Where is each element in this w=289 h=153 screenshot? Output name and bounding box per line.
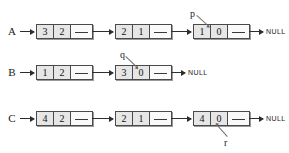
node-cell-value: 2 [116, 25, 133, 38]
node-cell-value: 2 [116, 112, 133, 125]
null-arrow [171, 72, 185, 73]
head-arrow-c [20, 118, 34, 119]
node-cell-pointer [71, 112, 92, 125]
node-cell-value: 2 [54, 66, 71, 79]
link-arrow [171, 118, 191, 119]
link-arrow [171, 31, 191, 32]
node-cell-pointer [71, 25, 92, 38]
node-cell-pointer [228, 25, 249, 38]
null-terminator: NULL [188, 69, 208, 76]
list-node: 3 2 [36, 24, 93, 39]
node-cell-value: 3 [37, 25, 54, 38]
list-node: 2 1 [115, 24, 172, 39]
node-cell-pointer [150, 112, 171, 125]
node-cell-pointer [150, 66, 171, 79]
node-cell-value: 1 [133, 25, 150, 38]
node-cell-pointer [228, 112, 249, 125]
list-node: 4 2 [36, 111, 93, 126]
list-node: 1 0 [193, 24, 250, 39]
null-terminator: NULL [266, 28, 286, 35]
list-node: 4 0 [193, 111, 250, 126]
list-head-label-c: C [6, 113, 18, 124]
node-cell-value: 1 [133, 112, 150, 125]
node-cell-value: 2 [54, 25, 71, 38]
node-cell-pointer [71, 66, 92, 79]
node-cell-value: 1 [37, 66, 54, 79]
list-head-label-b: B [6, 67, 18, 78]
node-cell-pointer [150, 25, 171, 38]
link-arrow [92, 118, 113, 119]
link-arrow [92, 72, 113, 73]
linked-list-diagram: A 3 2 2 1 1 0 NULL p B 1 2 3 0 NULL q C [0, 0, 289, 153]
null-arrow [249, 118, 263, 119]
list-head-label-a: A [6, 26, 18, 37]
pointer-variable-r: r [224, 138, 227, 148]
node-cell-value: 3 [116, 66, 133, 79]
link-arrow [92, 31, 113, 32]
null-arrow [249, 31, 263, 32]
list-node: 1 2 [36, 65, 93, 80]
pointer-variable-p: p [190, 9, 195, 19]
null-terminator: NULL [266, 115, 286, 122]
head-arrow-b [20, 72, 34, 73]
pointer-variable-q: q [120, 50, 125, 60]
node-cell-value: 4 [194, 112, 211, 125]
node-cell-value: 4 [37, 112, 54, 125]
list-node: 2 1 [115, 111, 172, 126]
node-cell-value: 2 [54, 112, 71, 125]
list-node: 3 0 [115, 65, 172, 80]
node-cell-value: 0 [211, 25, 228, 38]
head-arrow-a [20, 31, 34, 32]
